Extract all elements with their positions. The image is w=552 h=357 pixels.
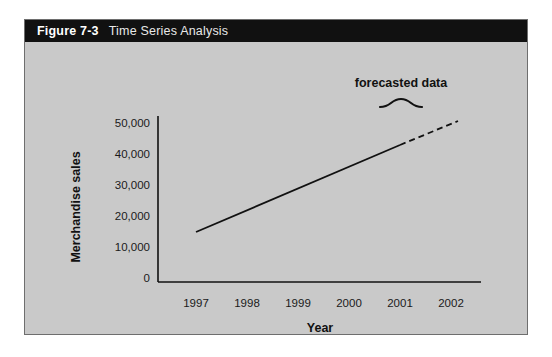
y-tick-label-20000: 20,000 [115, 210, 150, 222]
figure-title-bar: Figure 7-3 Time Series Analysis [25, 20, 527, 42]
x-tick-label-1997: 1997 [183, 297, 209, 309]
figure-number: Figure 7-3 [37, 24, 99, 38]
figure-panel: Figure 7-3 Time Series Analysis 50,000 4… [24, 19, 528, 335]
forecast-brace-icon [380, 99, 422, 107]
y-tick-label-30000: 30,000 [115, 179, 150, 191]
x-tick-label-2002: 2002 [438, 297, 464, 309]
y-tick-label-10000: 10,000 [115, 241, 150, 253]
x-tick-label-1999: 1999 [285, 297, 311, 309]
y-tick-label-50000: 50,000 [115, 117, 150, 129]
x-tick-label-2000: 2000 [336, 297, 362, 309]
forecast-annotation-label: forecasted data [355, 76, 448, 90]
y-tick-label-0: 0 [144, 272, 150, 284]
x-tick-label-2001: 2001 [387, 297, 413, 309]
chart-plot-area: 50,000 40,000 30,000 20,000 10,000 0 Mer… [25, 42, 527, 334]
time-series-chart: 50,000 40,000 30,000 20,000 10,000 0 Mer… [25, 42, 527, 334]
x-tick-label-1998: 1998 [234, 297, 260, 309]
x-axis-title: Year [307, 321, 334, 334]
y-tick-label-40000: 40,000 [115, 148, 150, 160]
series-line-forecasted [400, 121, 458, 145]
y-axis-title: Merchandise sales [69, 151, 83, 262]
series-line-observed [196, 145, 400, 232]
figure-caption: Time Series Analysis [109, 24, 229, 38]
